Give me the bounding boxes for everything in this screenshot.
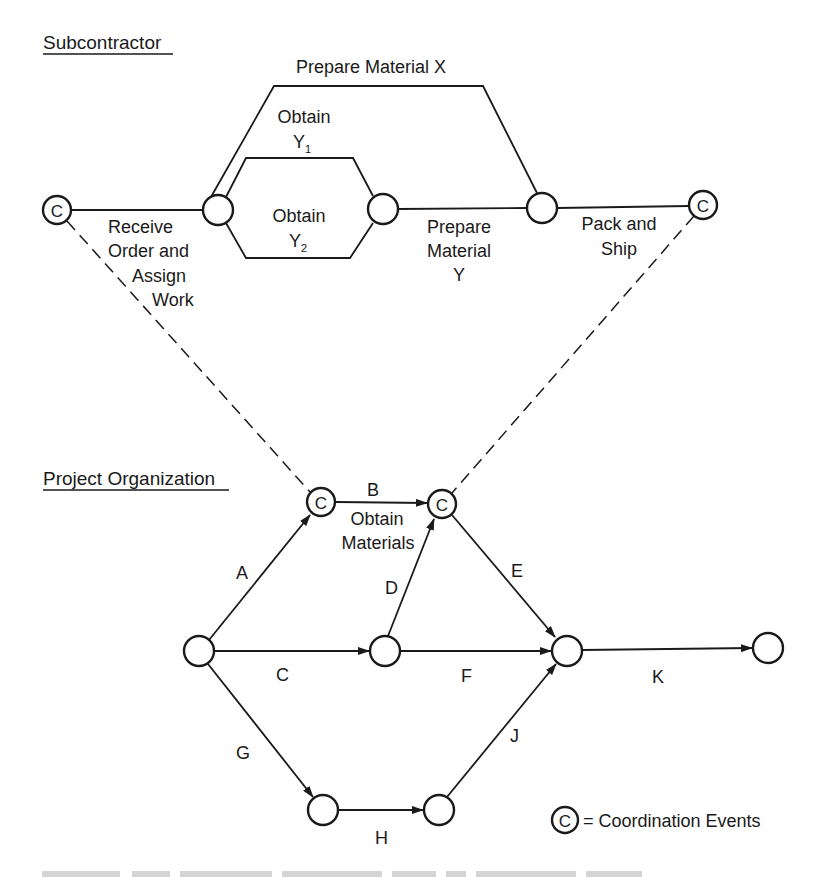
section-title-project: Project Organization (43, 468, 215, 489)
edge-G (208, 664, 313, 797)
svg-text:C: C (436, 496, 448, 515)
label-H: H (375, 828, 388, 848)
edge-prepare-material-x (211, 86, 537, 197)
legend-coordination-symbol: C (552, 807, 578, 833)
coordination-node-sub-end: C (689, 191, 717, 219)
label-materials: Materials (341, 533, 414, 553)
event-node-g (308, 795, 338, 825)
label-B: B (367, 480, 379, 500)
svg-text:C: C (315, 494, 327, 513)
svg-text:Y: Y (453, 265, 465, 285)
label-receive-order: Receive Order and Assign Work (108, 217, 195, 310)
label-pack-ship: Pack and Ship (581, 214, 656, 259)
svg-text:Ship: Ship (601, 239, 637, 259)
label-G: G (236, 743, 250, 763)
event-node-sub-2 (368, 194, 398, 224)
label-F: F (461, 666, 472, 686)
edge-K (582, 648, 752, 650)
label-obtain-y2: Obtain (272, 206, 325, 226)
label-C: C (276, 665, 289, 685)
edge-E (452, 515, 555, 637)
svg-text:C: C (697, 197, 709, 216)
event-node-end (753, 633, 783, 663)
label-A: A (236, 563, 248, 583)
label-prepare-material-x: Prepare Material X (296, 57, 446, 77)
network-diagram: Subcontractor C C Prepare Material X Obt… (0, 0, 820, 877)
coordination-node-project-2: C (428, 490, 456, 518)
label-D: D (385, 578, 398, 598)
figure-caption-faded (42, 871, 642, 877)
event-node-h (424, 795, 454, 825)
label-prepare-material-y: Prepare Material Y (427, 217, 491, 285)
label-obtain: Obtain (350, 509, 403, 529)
edge-A (209, 515, 310, 640)
event-node-merge (552, 636, 582, 666)
svg-text:Order and: Order and (108, 241, 189, 261)
label-E: E (511, 561, 523, 581)
event-node-sub-3 (527, 193, 557, 223)
coordination-node-sub-start: C (43, 196, 71, 224)
svg-text:Pack and: Pack and (581, 214, 656, 234)
edge-B (336, 502, 427, 503)
svg-text:C: C (51, 202, 63, 221)
project-section: Project Organization C C A B Obtain (43, 468, 783, 848)
svg-text:Assign: Assign (132, 266, 186, 286)
label-J: J (510, 726, 519, 746)
event-node-sub-1 (203, 195, 233, 225)
coordination-node-project-1: C (307, 488, 335, 516)
subcontractor-section: Subcontractor C C Prepare Material X Obt… (43, 32, 717, 310)
legend: C = Coordination Events (552, 807, 761, 833)
coordination-link-start (67, 221, 310, 492)
label-y1-letter: Y1 (293, 132, 311, 155)
section-title-subcontractor: Subcontractor (43, 32, 162, 53)
event-node-mid (370, 636, 400, 666)
svg-text:C: C (559, 812, 571, 831)
label-K: K (652, 667, 664, 687)
svg-text:Receive: Receive (108, 217, 173, 237)
edge-obtain-y1 (226, 158, 373, 197)
event-node-start (184, 636, 214, 666)
svg-text:Work: Work (152, 290, 195, 310)
label-obtain-y1: Obtain (277, 107, 330, 127)
label-y2-letter: Y2 (289, 231, 307, 254)
svg-text:Prepare: Prepare (427, 217, 491, 237)
svg-text:Material: Material (427, 241, 491, 261)
legend-text: = Coordination Events (583, 811, 761, 831)
edge-pack-ship (557, 206, 689, 208)
edge-prepare-material-y (398, 208, 527, 209)
